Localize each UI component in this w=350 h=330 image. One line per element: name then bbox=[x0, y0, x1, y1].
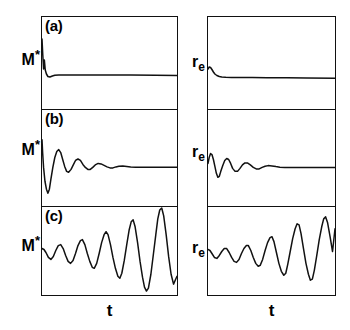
ylabel-left-base-a: M bbox=[22, 51, 35, 68]
ylabel-left-base-b: M bbox=[22, 141, 35, 158]
panel-left-c: (c) bbox=[42, 206, 177, 297]
ylabel-left-panel-a: M* bbox=[8, 52, 40, 68]
ylabel-right-panel-c: re bbox=[180, 240, 205, 256]
ylabel-right-panel-a: re bbox=[180, 54, 205, 70]
panel-column-right bbox=[207, 16, 336, 296]
ylabel-left-sup-a: * bbox=[35, 47, 40, 62]
panel-right-b bbox=[208, 109, 335, 206]
ylabel-right-panel-b: re bbox=[180, 144, 205, 160]
plot-curve-right-a bbox=[208, 17, 335, 109]
xlabel-left-column: t bbox=[41, 302, 178, 319]
figure-root: (a) (b) (c) bbox=[0, 0, 350, 330]
ylabel-right-sub-a: e bbox=[198, 60, 205, 74]
plot-curve-left-b bbox=[42, 110, 177, 206]
ylabel-left-sup-c: * bbox=[35, 233, 40, 248]
ylabel-left-panel-c: M* bbox=[8, 238, 40, 254]
panel-right-a bbox=[208, 17, 335, 109]
ylabel-right-sub-b: e bbox=[198, 150, 205, 164]
plot-curve-left-c bbox=[42, 207, 177, 297]
ylabel-left-base-c: M bbox=[22, 237, 35, 254]
panel-left-b: (b) bbox=[42, 109, 177, 206]
panel-left-a: (a) bbox=[42, 17, 177, 109]
panel-column-left: (a) (b) (c) bbox=[41, 16, 178, 296]
ylabel-left-panel-b: M* bbox=[8, 142, 40, 158]
plot-curve-right-b bbox=[208, 110, 335, 206]
xlabel-right-column: t bbox=[207, 302, 336, 319]
ylabel-right-sub-c: e bbox=[198, 246, 205, 260]
panel-right-c bbox=[208, 206, 335, 297]
plot-curve-left-a bbox=[42, 17, 177, 109]
ylabel-left-sup-b: * bbox=[35, 137, 40, 152]
plot-curve-right-c bbox=[208, 207, 335, 297]
